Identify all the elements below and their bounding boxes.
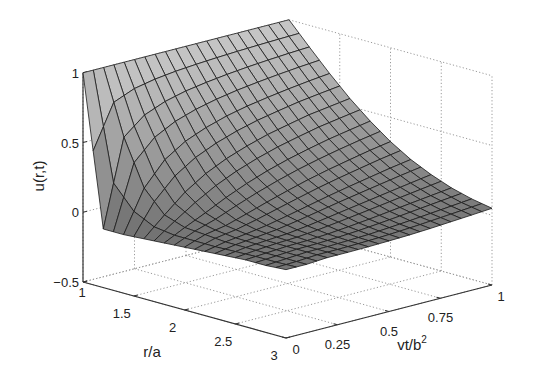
y-tick [334,324,338,325]
z-tick-label: −0.5 [53,275,79,290]
x-axis-label: r/a [143,343,161,360]
z-tick-label: 1 [72,66,79,81]
grid-line [135,269,338,325]
surface-mesh [83,20,492,270]
y-tick [385,311,389,312]
y-tick [282,337,286,338]
x-tick-label: 1 [78,285,85,300]
x-tick [235,323,239,324]
z-axis-label: u(r,t) [30,161,47,192]
y-tick [437,297,441,298]
z-tick-label: 0 [72,205,79,220]
x-tick-label: 1.5 [113,306,131,321]
y-tick-label: 0.5 [380,324,398,339]
y-tick [488,284,492,285]
x-tick [185,309,189,310]
z-tick-label: 0.5 [61,136,79,151]
y-axis-label: vt/b2 [397,334,427,353]
x-tick-label: 2 [169,320,176,335]
surface-plot: −0.500.5111.522.5300.250.50.751 r/a vt/b… [0,0,533,377]
x-tick [134,295,138,296]
x-tick-label: 2.5 [214,334,232,349]
y-tick-label: 0.75 [428,310,453,325]
y-axis-label-superscript: 2 [421,334,427,345]
x-tick [286,337,290,338]
y-tick-label: 0.25 [325,337,350,352]
x-tick-label: 3 [270,348,277,363]
y-tick-label: 1 [497,289,504,304]
y-axis-label-base: vt/b [397,336,421,353]
grid-line [235,271,441,324]
y-tick-label: 0 [292,342,299,357]
